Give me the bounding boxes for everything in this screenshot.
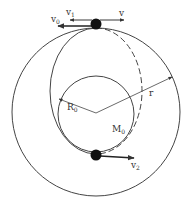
label-m0: M0 xyxy=(112,124,125,135)
satellite-bottom xyxy=(91,150,102,161)
label-r0: R0 xyxy=(67,102,78,113)
v2-arrow xyxy=(100,156,134,158)
transfer-orbit-dashed xyxy=(96,28,142,154)
label-v2: v2 xyxy=(130,160,140,171)
satellite-top xyxy=(91,19,102,30)
planet-circle xyxy=(58,76,134,152)
label-v: v xyxy=(118,8,125,18)
label-v1: v1 xyxy=(65,7,75,18)
label-v0: v0 xyxy=(50,14,60,25)
label-r: r xyxy=(149,88,154,98)
r-radius-arrow xyxy=(96,77,172,113)
transfer-orbit-solid xyxy=(50,28,96,154)
orbit-diagram: v0 v1 v v2 R0 r M0 xyxy=(0,0,190,205)
outer-orbit-circle xyxy=(12,28,180,196)
